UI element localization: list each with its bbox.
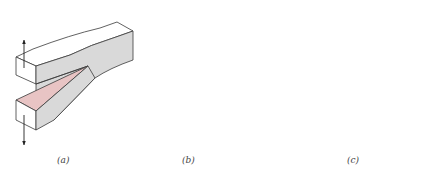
panel-a-opening-mode: [16, 22, 133, 145]
panel-a-label: (a): [57, 155, 69, 165]
fracture-modes-diagram: [0, 0, 444, 179]
panel-c-label: (c): [347, 155, 359, 165]
panel-b-label: (b): [182, 155, 195, 165]
